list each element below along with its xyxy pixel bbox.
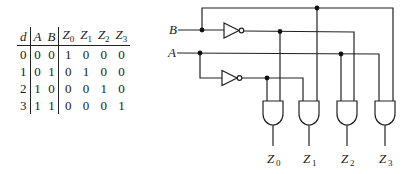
input-label-a: A (167, 45, 176, 60)
svg-text:2: 2 (350, 158, 355, 168)
svg-text:Z: Z (341, 151, 349, 166)
and-gate-z0 (263, 101, 283, 146)
and-gate-z2 (337, 101, 357, 146)
decoder-circuit: B A (0, 0, 415, 174)
output-label-z1: Z 1 (303, 151, 317, 168)
svg-text:Z: Z (267, 151, 275, 166)
not-gate-a (222, 71, 242, 86)
wire-a-bar (242, 78, 303, 101)
junction-dot (339, 52, 344, 57)
junction-dot (278, 29, 283, 34)
svg-text:Z: Z (379, 151, 387, 166)
wire-a (177, 53, 379, 101)
svg-text:Z: Z (303, 151, 311, 166)
not-gate-b (224, 23, 244, 38)
wire-b-bar (244, 31, 354, 101)
output-label-z3: Z 3 (379, 151, 393, 168)
junction-dot (198, 51, 203, 56)
and-gate-z1 (299, 101, 319, 146)
output-label-z2: Z 2 (341, 151, 355, 168)
junction-dot (315, 6, 320, 11)
svg-text:1: 1 (312, 158, 317, 168)
junction-dot (265, 76, 270, 81)
output-label-z0: Z 0 (267, 151, 281, 168)
input-label-b: B (169, 22, 177, 37)
and-gate-z3 (375, 101, 395, 146)
junction-dot (200, 28, 205, 33)
svg-text:3: 3 (388, 158, 393, 168)
svg-text:0: 0 (276, 158, 281, 168)
